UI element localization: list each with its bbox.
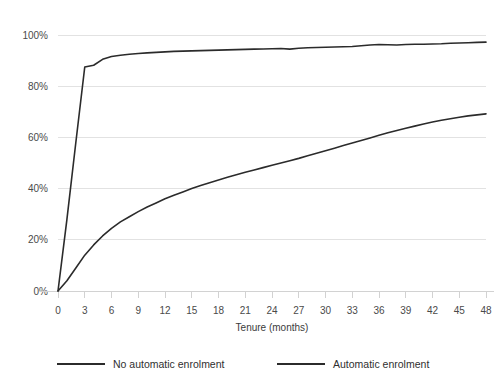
x-axis-tick-label: 6	[109, 305, 115, 316]
y-axis-tick-label: 60%	[28, 132, 48, 143]
legend-item-label: No automatic enrolment	[113, 358, 225, 370]
x-axis-tick-label: 0	[55, 305, 61, 316]
y-axis-tick-label: 80%	[28, 81, 48, 92]
x-axis-tick-label: 48	[480, 305, 492, 316]
x-axis-tick-label: 18	[213, 305, 225, 316]
x-axis-tick-label: 33	[347, 305, 359, 316]
y-axis-tick-label: 40%	[28, 183, 48, 194]
x-axis-tick-label: 36	[373, 305, 385, 316]
line-chart: 0%20%40%60%80%100% 036912151821242730333…	[0, 0, 501, 387]
x-axis-tick-label: 42	[427, 305, 439, 316]
x-axis-tick-label: 12	[159, 305, 171, 316]
x-axis-tick-label: 45	[454, 305, 466, 316]
x-axis-tick-label: 30	[320, 305, 332, 316]
y-axis-tick-label: 20%	[28, 234, 48, 245]
x-axis-tick-label: 39	[400, 305, 412, 316]
legend-item-label: Automatic enrolment	[333, 358, 429, 370]
x-axis-tick-label: 9	[135, 305, 141, 316]
x-axis-tick-label: 27	[293, 305, 305, 316]
x-axis-tick-label: 21	[240, 305, 252, 316]
x-axis-tick-label: 24	[266, 305, 278, 316]
x-axis-title: Tenure (months)	[236, 322, 309, 333]
x-axis-tick-label: 15	[186, 305, 198, 316]
chart-container: 0%20%40%60%80%100% 036912151821242730333…	[0, 0, 501, 387]
x-axis-tick-label: 3	[82, 305, 88, 316]
y-axis-tick-label: 100%	[22, 30, 48, 41]
